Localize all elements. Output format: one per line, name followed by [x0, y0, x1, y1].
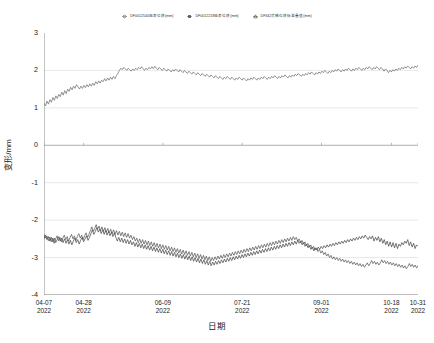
- legend-label-series-1: DF0012540地表位移(mm): [130, 13, 173, 19]
- square-marker-icon: [187, 14, 192, 19]
- y-tick-label: 0: [18, 141, 38, 149]
- x-tick-label: 04-282022: [61, 299, 107, 314]
- series-line-1: [44, 65, 418, 106]
- legend-item-series-3[interactable]: DF342货梯位移标准量值(mm): [253, 13, 312, 19]
- chart-canvas: [44, 33, 418, 295]
- legend-label-series-3: DF342货梯位移标准量值(mm): [261, 13, 312, 19]
- y-tick-label: 1: [18, 104, 38, 112]
- x-tick-label: 09-012022: [299, 299, 345, 314]
- y-tick-label: -4: [18, 291, 38, 299]
- plot-area: [44, 33, 418, 295]
- legend-item-series-1[interactable]: DF0012540地表位移(mm): [122, 13, 173, 19]
- y-axis-title: 变形/mm: [4, 125, 14, 185]
- y-tick-label: -3: [18, 254, 38, 262]
- series-line-3: [44, 228, 418, 266]
- chart-legend: DF0012540地表位移(mm) DF0012218地表位移(mm) DF34…: [0, 13, 434, 19]
- x-tick-label: 10-312022: [395, 299, 434, 314]
- y-tick-label: -2: [18, 216, 38, 224]
- x-tick-label: 06-092022: [140, 299, 186, 314]
- y-tick-label: -1: [18, 179, 38, 187]
- chart-container: DF0012540地表位移(mm) DF0012218地表位移(mm) DF34…: [0, 0, 434, 343]
- legend-item-series-2[interactable]: DF0012218地表位移(mm): [187, 13, 238, 19]
- x-tick-label: 07-212022: [219, 299, 265, 314]
- x-axis-title: 日期: [0, 319, 434, 331]
- circle-marker-icon: [122, 14, 127, 19]
- y-tick-label: 2: [18, 66, 38, 74]
- triangle-marker-icon: [253, 14, 258, 19]
- y-tick-label: 3: [18, 29, 38, 37]
- legend-label-series-2: DF0012218地表位移(mm): [195, 13, 238, 19]
